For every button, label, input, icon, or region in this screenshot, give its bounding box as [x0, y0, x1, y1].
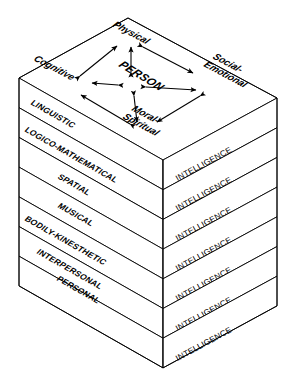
diagram-canvas: Physical Cognitive Social- Emotional Mor… [0, 0, 291, 384]
isometric-intelligence-stack: Physical Cognitive Social- Emotional Mor… [0, 0, 291, 384]
